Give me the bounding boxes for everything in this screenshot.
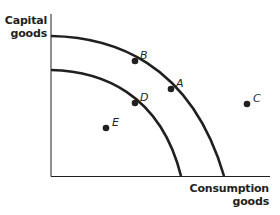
point-c-marker bbox=[244, 101, 251, 108]
point-a-label: A bbox=[176, 78, 184, 89]
x-axis-label: Consumption goods bbox=[190, 182, 269, 208]
point-d-marker bbox=[132, 100, 139, 107]
point-e-label: E bbox=[112, 117, 119, 128]
point-b-marker bbox=[132, 58, 139, 65]
point-a-marker bbox=[168, 86, 175, 93]
point-e-marker bbox=[103, 125, 110, 132]
point-b-label: B bbox=[140, 50, 148, 61]
x-axis-label-line1: Consumption bbox=[190, 182, 269, 195]
y-axis-label: Capital goods bbox=[5, 14, 47, 40]
y-axis-label-line2: goods bbox=[5, 27, 47, 40]
point-d-label: D bbox=[140, 92, 148, 103]
x-axis-label-line2: goods bbox=[190, 195, 269, 208]
y-axis-label-line1: Capital bbox=[5, 14, 47, 27]
point-c-label: C bbox=[253, 93, 261, 104]
outer-ppf-curve bbox=[51, 36, 224, 176]
